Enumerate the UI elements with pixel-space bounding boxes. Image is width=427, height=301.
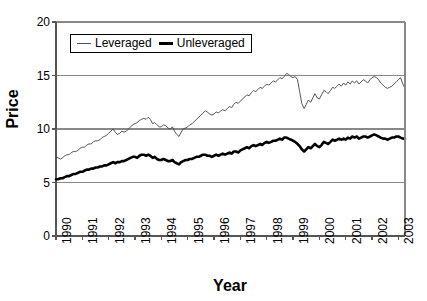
x-tick-label-1997: 1997 — [245, 217, 257, 244]
x-tick-label-1994: 1994 — [166, 217, 178, 244]
x-tick-label-1993: 1993 — [140, 217, 152, 244]
x-tick-label-1991: 1991 — [87, 217, 99, 244]
legend-line-swatch-unleveraged-icon — [159, 42, 173, 45]
legend-line-swatch-leveraged-icon — [77, 43, 91, 44]
x-tick-label-2000: 2000 — [324, 217, 336, 244]
x-tick-label-2003: 2003 — [403, 217, 415, 244]
y-axis-title: Price — [4, 74, 22, 144]
x-tick-label-1999: 1999 — [298, 217, 310, 244]
x-tick-label-1992: 1992 — [114, 217, 126, 244]
x-tick-label-2002: 2002 — [377, 217, 389, 244]
x-tick-label-1996: 1996 — [219, 217, 231, 244]
x-tick-label-1990: 1990 — [61, 217, 73, 244]
legend: Leveraged Unleveraged — [70, 34, 252, 53]
x-tick-label-1995: 1995 — [193, 217, 205, 244]
x-tick-label-2001: 2001 — [351, 217, 363, 244]
legend-entry-leveraged: Leveraged — [77, 37, 152, 50]
x-tick-label-1998: 1998 — [272, 217, 284, 244]
legend-label-unleveraged: Unleveraged — [177, 37, 245, 50]
x-axis-title: Year — [55, 277, 405, 295]
chart-container: 05101520 1990199119921993199419951996199… — [0, 0, 427, 301]
legend-label-leveraged: Leveraged — [95, 37, 152, 50]
legend-entry-unleveraged: Unleveraged — [159, 37, 245, 50]
